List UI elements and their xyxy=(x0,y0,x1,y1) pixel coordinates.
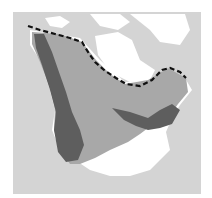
map-svg xyxy=(13,12,201,194)
range-map xyxy=(13,12,201,194)
